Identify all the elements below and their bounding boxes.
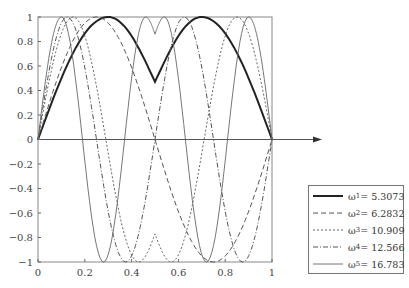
x-tick-label: 0 [35,267,41,278]
x-tick-label: 0.4 [124,267,140,278]
legend-symbol: ω [348,208,356,219]
legend-value: = 5.3073 [360,191,404,202]
y-tick-label: 1 [27,12,33,23]
x-axis-arrow-icon [313,137,322,143]
y-tick-label: 0 [27,134,33,145]
x-tick-label: 1 [269,267,275,278]
legend-item-5: ω5 = 16.783 [313,256,404,272]
x-tick-label: 0.6 [170,267,186,278]
line-sample-dash-dot-icon [313,244,343,250]
legend-item-2: ω2 = 6.2832 [313,205,404,221]
y-tick-label: −0.4 [9,183,33,194]
y-tick-label: −0.2 [9,159,33,170]
legend-value: = 16.783 [360,259,404,270]
y-tick-label: −0.6 [9,208,33,219]
x-tick-label: 0.2 [77,267,93,278]
x-tick-label: 0.8 [217,267,233,278]
legend-symbol: ω [348,191,356,202]
legend-symbol: ω [348,259,356,270]
y-tick-label: −0.8 [9,232,33,243]
line-sample-dotted-icon [313,227,343,233]
y-tick-label: 0.6 [17,61,33,72]
legend-item-4: ω4 = 12.566 [313,239,404,255]
legend-item-1: ω1 = 5.3073 [313,188,404,204]
legend-symbol: ω [348,242,356,253]
y-tick-label: 0.8 [17,36,33,47]
line-sample-thin-solid-icon [313,261,343,267]
legend: ω1 = 5.3073 ω2 = 6.2832 ω3 = 10.909 ω4 =… [308,185,404,274]
line-sample-dashed-icon [313,210,343,216]
legend-item-3: ω3 = 10.909 [313,222,404,238]
legend-symbol: ω [348,225,356,236]
y-tick-label: 0.2 [17,110,33,121]
y-tick-label: 0.4 [17,85,33,96]
legend-value: = 6.2832 [360,208,404,219]
line-sample-thick-solid-icon [313,193,343,199]
legend-value: = 12.566 [360,242,404,253]
y-tick-label: −1 [18,257,33,268]
legend-value: = 10.909 [360,225,404,236]
